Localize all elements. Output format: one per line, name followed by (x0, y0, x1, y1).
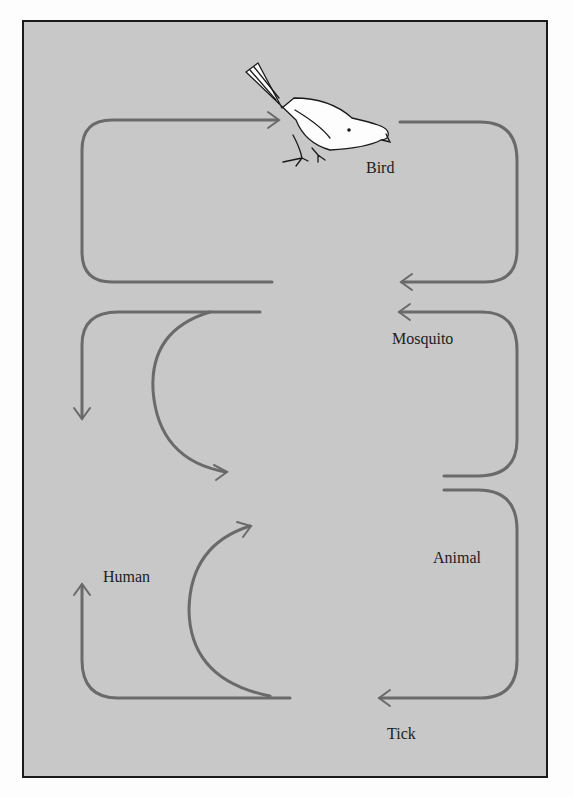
arrow-mosquito-to-animal (153, 312, 227, 480)
label-mosquito: Mosquito (392, 330, 453, 348)
bird-icon (246, 63, 390, 166)
arrow-bird-to-mosquito (400, 122, 517, 290)
arrow-mosquito-to-human (74, 312, 260, 419)
label-human: Human (103, 568, 150, 586)
label-bird: Bird (366, 159, 394, 177)
label-tick: Tick (387, 725, 416, 743)
arrow-animal-to-tick (379, 490, 517, 706)
arrow-tick-to-human (74, 584, 290, 698)
transmission-cycle-diagram (0, 0, 573, 797)
arrow-mosquito-to-bird (82, 112, 279, 282)
arrow-tick-to-animal (189, 522, 270, 696)
label-animal: Animal (433, 549, 481, 567)
